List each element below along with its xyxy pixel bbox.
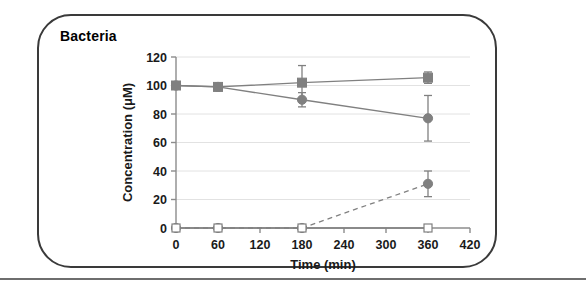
bottom-divider — [0, 278, 586, 280]
x-tick-label-360: 360 — [418, 238, 439, 252]
series-circles-dashed-line — [302, 184, 428, 228]
y-axis-title: Concentration (μM) — [120, 83, 135, 202]
x-tick-label-240: 240 — [334, 238, 355, 252]
series-squares-open-marker-60 — [214, 224, 222, 232]
y-tick-label-0: 0 — [160, 222, 167, 236]
x-tick-label-0: 0 — [173, 238, 180, 252]
series-squares-open-marker-180 — [298, 224, 306, 232]
series-circles-dashed-marker-360 — [423, 179, 432, 188]
x-tick-label-60: 60 — [211, 238, 225, 252]
series-circles-filled-marker-0 — [171, 81, 180, 90]
x-tick-label-420: 420 — [460, 238, 481, 252]
line-chart-plot: 020406080100120060120180240300360420Time… — [0, 0, 586, 291]
series-circles-filled-marker-360 — [423, 114, 432, 123]
y-tick-label-20: 20 — [153, 193, 167, 207]
x-tick-label-120: 120 — [250, 238, 271, 252]
y-tick-label-40: 40 — [153, 165, 167, 179]
y-tick-label-100: 100 — [146, 79, 167, 93]
series-squares-filled-marker-180 — [298, 78, 307, 87]
series-squares-open-marker-0 — [172, 224, 180, 232]
y-tick-label-80: 80 — [153, 108, 167, 122]
x-axis-title: Time (min) — [290, 257, 356, 272]
y-tick-label-60: 60 — [153, 136, 167, 150]
x-tick-label-180: 180 — [292, 238, 313, 252]
x-tick-label-300: 300 — [376, 238, 397, 252]
y-tick-label-120: 120 — [146, 51, 167, 65]
figure-bacteria-concentration: Bacteria 0204060801001200601201802403003… — [0, 0, 586, 291]
series-circles-filled-marker-60 — [213, 82, 222, 91]
series-squares-open-marker-360 — [424, 224, 432, 232]
series-squares-filled-marker-360 — [424, 73, 433, 82]
series-circles-filled-marker-180 — [297, 95, 306, 104]
